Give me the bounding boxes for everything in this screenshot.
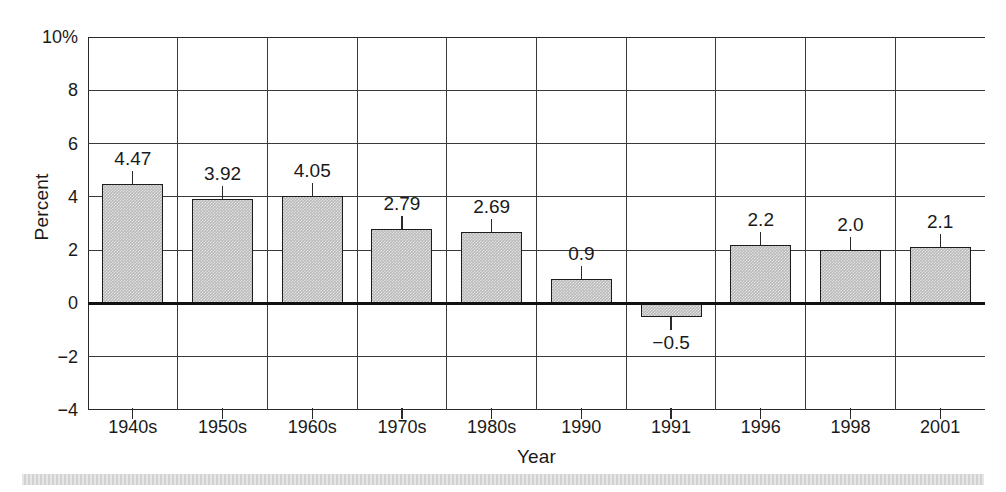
bar-value-label: 0.9 [511, 244, 651, 263]
bar [730, 245, 791, 304]
decorative-bottom-band [22, 474, 984, 485]
bar-value-leader-line [670, 317, 671, 330]
bar-value-leader-line [312, 183, 313, 196]
bar-value-leader-line [940, 234, 941, 247]
y-tick-label: 4 [8, 188, 78, 206]
bar-value-label: 4.05 [242, 161, 382, 180]
bar-value-leader-line [222, 186, 223, 199]
bar [461, 232, 522, 304]
y-tick-label: 0 [8, 294, 78, 312]
gridline-vertical [536, 37, 537, 410]
gridline-vertical [267, 37, 268, 410]
y-tick-label: 2 [8, 241, 78, 259]
bar-value-leader-line [491, 219, 492, 232]
plot-frame-left [88, 37, 89, 410]
bar [910, 247, 971, 303]
chart-figure: Percent 4.473.924.052.792.690.9−0.52.22.… [0, 0, 1006, 492]
bar [641, 303, 702, 316]
y-tick-label: 8 [8, 81, 78, 99]
bar-value-leader-line [850, 237, 851, 250]
bar [820, 250, 881, 303]
bar-value-label: 2.69 [422, 197, 562, 216]
gridline-vertical [446, 37, 447, 410]
bar-value-leader-line [132, 171, 133, 184]
y-tick-label: −4 [8, 401, 78, 419]
gridline-vertical [357, 37, 358, 410]
x-tick-label: 2001 [880, 418, 1000, 436]
bar-value-leader-line [581, 266, 582, 279]
y-tick-label: −2 [8, 348, 78, 366]
bar [192, 199, 253, 303]
plot-area: 4.473.924.052.792.690.9−0.52.22.02.1 [88, 37, 985, 410]
bar [371, 229, 432, 303]
gridline-vertical [177, 37, 178, 410]
gridline-vertical [626, 37, 627, 410]
bar [551, 279, 612, 303]
zero-line [88, 302, 985, 305]
bar-value-leader-line [401, 216, 402, 229]
bar-value-leader-line [760, 232, 761, 245]
x-axis-title: Year [88, 446, 985, 468]
bar-value-label: 2.1 [870, 212, 1006, 231]
bar [102, 184, 163, 303]
y-tick-label: 10% [8, 28, 78, 46]
bar-value-label: −0.5 [601, 333, 741, 352]
